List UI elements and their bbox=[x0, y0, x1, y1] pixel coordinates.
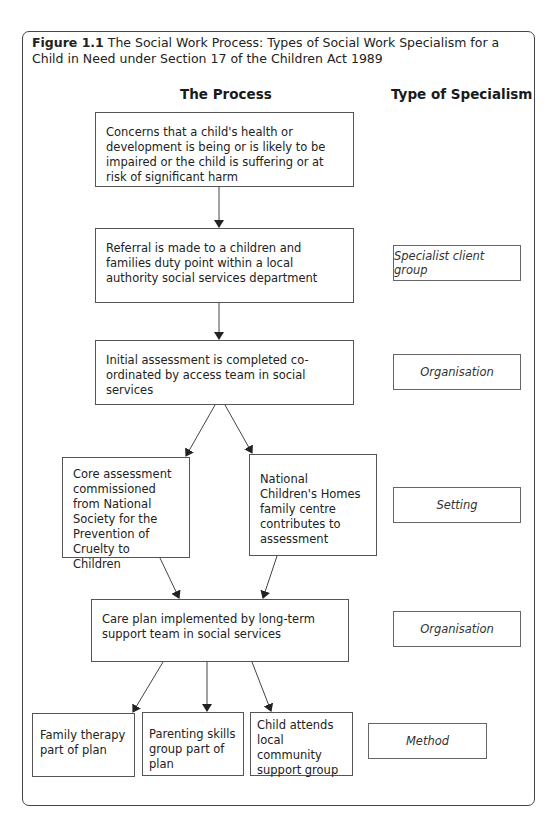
specialism-client-group: Specialist client group bbox=[393, 245, 521, 281]
specialism-organisation-2: Organisation bbox=[393, 611, 521, 647]
step-core-assessment: Core assessment commissioned from Nation… bbox=[62, 457, 190, 558]
specialism-setting: Setting bbox=[393, 487, 521, 523]
step-care-plan: Care plan implemented by long-term suppo… bbox=[91, 599, 349, 662]
specialism-organisation-1: Organisation bbox=[393, 354, 521, 390]
step-referral: Referral is made to a children and famil… bbox=[95, 228, 354, 303]
specialism-method: Method bbox=[368, 723, 487, 759]
step-community-group: Child attends local community support gr… bbox=[250, 712, 353, 776]
step-family-therapy: Family therapy part of plan bbox=[32, 713, 135, 777]
step-initial-assessment: Initial assessment is completed co-ordin… bbox=[95, 340, 354, 405]
step-nch-centre: National Children's Homes family centre … bbox=[249, 454, 377, 556]
step-concerns: Concerns that a child's health or develo… bbox=[95, 112, 354, 187]
step-parenting-skills: Parenting skills group part of plan bbox=[142, 712, 244, 776]
